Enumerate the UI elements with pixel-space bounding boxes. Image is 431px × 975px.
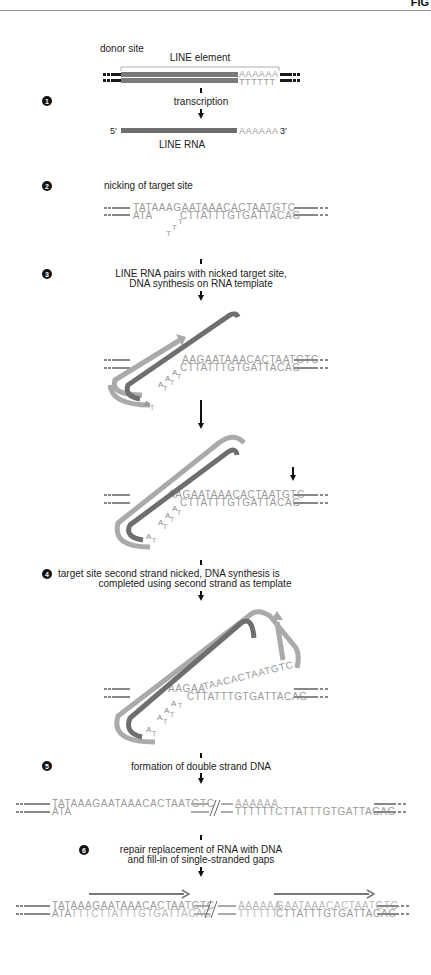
step-5-right-bottom: TTTTTTCTTATTTGTGATTACAG — [235, 806, 396, 817]
donor-left-flank — [103, 73, 121, 82]
step-2-label: nicking of target site — [104, 180, 193, 191]
rna-3prime: 3′ — [280, 126, 287, 136]
step-4-tick — [200, 560, 202, 565]
step-3: 3 LINE RNA pairs with nicked target site… — [42, 259, 328, 426]
svg-text:T: T — [163, 718, 168, 725]
rna-label: LINE RNA — [159, 139, 205, 150]
step-6: 6 repair replacement of RNA with DNA and… — [16, 835, 409, 919]
donor-site-label: donor site — [100, 43, 144, 54]
svg-text:T: T — [163, 385, 168, 392]
svg-text:T: T — [163, 523, 168, 530]
donor-right-flank — [280, 73, 300, 82]
svg-text:T: T — [172, 223, 178, 232]
svg-text:T: T — [177, 373, 182, 380]
svg-text:CTTATTTGTGATTACAG: CTTATTTGTGATTACAG — [180, 497, 301, 508]
donor-polyT: TTTTTT — [239, 77, 276, 87]
rna-5prime: 5′ — [110, 126, 117, 136]
step-5-duplex: TATAAAGAATAAACACTAATGTC ATA AAAAAA TTTTT… — [16, 798, 406, 817]
step-6-left-bottom-dark: ATA — [52, 908, 72, 919]
step-6-label-line2: and fill-in of single-stranded gaps — [128, 854, 275, 865]
step-5-label: formation of double strand DNA — [131, 761, 271, 772]
line-element-top-strand — [121, 72, 238, 77]
svg-text:1: 1 — [45, 98, 49, 105]
target-left-flank — [104, 207, 130, 216]
step-3-label-line2: DNA synthesis on RNA template — [129, 278, 273, 289]
line-rna: 5′ AAAAAA 3′ LINE RNA — [110, 126, 287, 150]
step-1: 1 transcription — [42, 88, 228, 116]
rna-polyA: AAAAAA — [239, 126, 279, 136]
step-5-left-top: TATAAAGAATAAACACTAATGTC — [52, 798, 215, 809]
step-5: 5 formation of double strand DNA TATAAAG… — [16, 753, 406, 817]
svg-text:6: 6 — [82, 847, 86, 854]
svg-text:5: 5 — [45, 763, 49, 770]
svg-text:3: 3 — [45, 271, 49, 278]
step-4-AT-pairs: A T A T A T A T — [146, 699, 183, 737]
rna-strand — [121, 128, 237, 133]
step-6-left-bottom-fill: TTTCTTATTTGTGATTACAG — [71, 908, 212, 919]
svg-text:T: T — [150, 404, 155, 411]
step-3-tick — [200, 259, 202, 264]
step-5-tick — [200, 753, 202, 758]
line-element-bottom-strand — [121, 78, 238, 83]
step-6-tick — [200, 835, 202, 840]
svg-text:T: T — [170, 516, 175, 523]
svg-text:A: A — [171, 699, 177, 708]
step-4-label-line2: completed using second strand as templat… — [99, 578, 292, 589]
step-1-tick — [200, 88, 202, 93]
svg-text:T: T — [178, 217, 184, 226]
step-6-right-bottom-polyT: TTTTTT — [238, 908, 278, 919]
svg-text:T: T — [170, 711, 175, 718]
step-4-dna-loop — [117, 612, 298, 742]
svg-text:T: T — [152, 730, 157, 737]
svg-text:T: T — [170, 379, 175, 386]
step-2: 2 nicking of target site TATAAAGAATAAACA… — [42, 180, 328, 238]
svg-text:CTTATTTGTGATTACAG: CTTATTTGTGATTACAG — [187, 691, 308, 702]
svg-text:CTTATTTGTGATTACAG: CTTATTTGTGATTACAG — [180, 362, 301, 373]
step-6-duplex: TATAAAGAATAAACACTAATGTC ATA TTTCTTATTTGT… — [16, 900, 409, 919]
svg-text:T: T — [152, 537, 157, 544]
step-3-AT-pairs: A T A T A T A T — [144, 368, 182, 411]
svg-text:2: 2 — [45, 183, 49, 190]
step-1-label: transcription — [174, 96, 228, 107]
svg-text:4: 4 — [45, 571, 49, 578]
step-4-displaced-top-strand: TAACACTAATGTC — [202, 659, 295, 692]
svg-text:T: T — [177, 509, 182, 516]
target-bottom-left: ATA — [133, 210, 153, 221]
step-5-left-bottom: ATA — [52, 806, 72, 817]
step-4: 4 target site second strand nicked, DNA … — [42, 560, 328, 742]
target-bottom-right: CTTATTTGTGATTACAG — [180, 210, 301, 221]
line-retrotransposition-diagram: donor site LINE element AAAAAA TTTTTT 1 … — [0, 0, 431, 975]
svg-text:T: T — [178, 702, 183, 709]
line-element-label: LINE element — [170, 52, 231, 63]
step-3b: AAGAATAAACACTAATGTC CTTATTTGTGATTACAG A … — [104, 437, 328, 547]
hanging-T-nucleotides: T — [166, 229, 172, 238]
step-4-target-duplex: AAGAA TAACACTAATGTC CTTATTTGTGATTACAG — [104, 659, 328, 702]
donor-site-panel: donor site LINE element AAAAAA TTTTTT — [100, 43, 300, 87]
